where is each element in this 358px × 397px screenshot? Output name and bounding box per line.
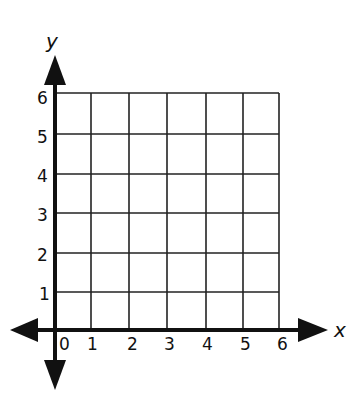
x-tick-labels: 0 1 2 3 4 5 6 [59,334,288,354]
y-tick-4: 4 [37,166,48,186]
x-tick-5: 5 [240,334,251,354]
x-tick-1: 1 [87,334,98,354]
x-tick-0: 0 [59,334,70,354]
y-tick-3: 3 [37,205,48,225]
y-tick-1: 1 [39,284,50,304]
coordinate-plane: y x 0 1 2 3 4 5 6 6 5 4 3 2 1 [0,0,358,397]
y-tick-6: 6 [37,88,48,108]
x-tick-4: 4 [202,334,213,354]
y-axis-label: y [45,29,59,53]
y-axis-up-arrow-icon [44,55,66,85]
x-tick-2: 2 [127,334,138,354]
x-tick-3: 3 [164,334,175,354]
grid-vertical-lines [91,93,279,330]
x-axis-label: x [333,318,346,342]
x-axis-left-arrow-icon [10,318,38,342]
y-tick-5: 5 [37,127,48,147]
x-axis-right-arrow-icon [298,318,328,342]
y-axis-down-arrow-icon [44,360,66,390]
x-tick-6: 6 [277,334,288,354]
y-tick-2: 2 [37,245,48,265]
y-tick-labels: 6 5 4 3 2 1 [37,88,50,304]
